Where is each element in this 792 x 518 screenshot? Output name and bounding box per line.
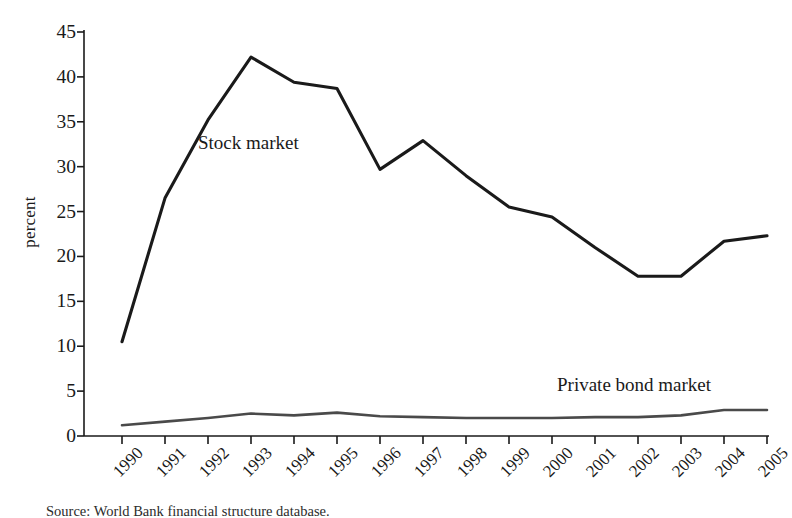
x-axis-tick-label: 1997 (411, 444, 447, 480)
x-axis-tick-label: 1993 (239, 444, 275, 480)
x-axis-tick-label: 2004 (712, 444, 748, 480)
x-axis-tick-label: 1990 (110, 444, 146, 480)
x-axis-tick-label: 2002 (626, 444, 662, 480)
x-axis-tick-label: 1992 (196, 444, 232, 480)
x-axis-tick-label: 1995 (325, 444, 361, 480)
x-axis-tick-label: 1991 (153, 444, 189, 480)
x-axis-tick-label: 2005 (755, 444, 791, 480)
x-axis-tick-label: 1996 (368, 444, 404, 480)
source-caption: Source: World Bank financial structure d… (46, 504, 330, 518)
series-annotation-private-bond-market: Private bond market (557, 375, 711, 394)
x-axis-tick-label: 1999 (497, 444, 533, 480)
x-axis-tick-labels: 1990199119921993199419951996199719981999… (0, 0, 792, 518)
x-axis-tick-label: 1998 (454, 444, 490, 480)
x-axis-tick-label: 2001 (583, 444, 619, 480)
x-axis-tick-label: 1994 (282, 444, 318, 480)
x-axis-tick-label: 2003 (669, 444, 705, 480)
figure-line-chart: percent 051015202530354045 1990199119921… (0, 0, 792, 518)
series-annotation-stock-market: Stock market (198, 133, 299, 152)
x-axis-tick-label: 2000 (540, 444, 576, 480)
